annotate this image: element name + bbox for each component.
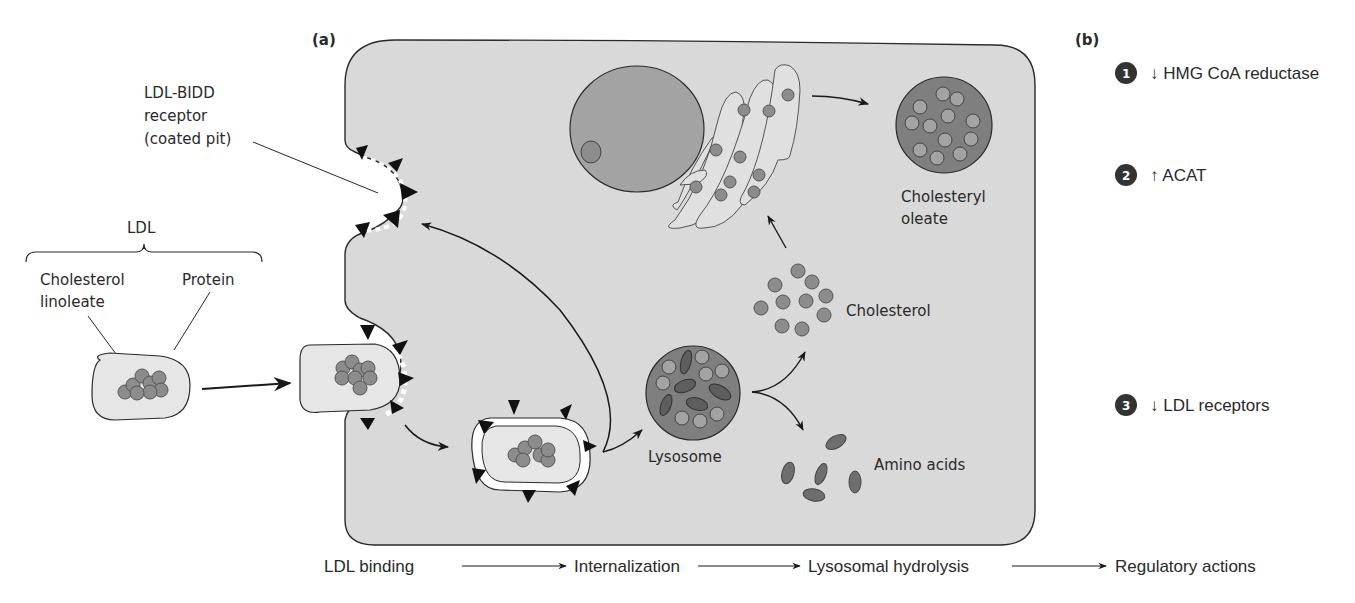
- action-text-1: ↓ HMG CoA reductase: [1150, 64, 1319, 83]
- amino-acids-label: Amino acids: [874, 456, 966, 474]
- receptor-label-line1: LDL-BIDD: [144, 84, 215, 102]
- arrow-down-icon: ↓: [1150, 64, 1159, 83]
- receptor-label-line2: receptor: [144, 107, 208, 125]
- ldl-particle: [92, 353, 190, 420]
- badge-number: 3: [1122, 399, 1130, 413]
- panel-a-label: (a): [312, 31, 336, 49]
- process-steps: LDL binding Internalization Lysosomal hy…: [324, 557, 1256, 576]
- badge-number: 1: [1122, 67, 1130, 81]
- ldl-label: LDL: [127, 219, 156, 237]
- action-label: ACAT: [1162, 166, 1206, 185]
- leader-line: [174, 292, 210, 350]
- step-regulatory-actions: Regulatory actions: [1115, 557, 1256, 576]
- action-label: HMG CoA reductase: [1163, 64, 1319, 83]
- badge-number: 2: [1122, 169, 1130, 183]
- cholesteryl-oleate-label-line2: oleate: [901, 210, 948, 228]
- cholesterol-linoleate-label-line1: Cholesterol: [40, 271, 125, 289]
- panel-b: (b) 1 ↓ HMG CoA reductase 2 ↑ ACAT 3 ↓ L…: [1075, 31, 1319, 416]
- ldl-pathway-diagram: LDL-BIDD receptor (coated pit) (a) LDL C…: [0, 0, 1355, 603]
- cholesterol-label: Cholesterol: [846, 302, 931, 320]
- arrow-down-icon: ↓: [1150, 396, 1159, 415]
- action-text-2: ↑ ACAT: [1150, 166, 1206, 185]
- lysosome: [646, 346, 740, 440]
- action-label: LDL receptors: [1163, 396, 1269, 415]
- leader-line: [88, 316, 116, 354]
- regulatory-action-3: 3 ↓ LDL receptors: [1115, 394, 1269, 416]
- receptor-label: LDL-BIDD receptor (coated pit): [144, 84, 378, 193]
- protein-label: Protein: [182, 271, 235, 289]
- brace: [26, 244, 262, 262]
- lysosome-label: Lysosome: [648, 448, 722, 466]
- action-text-3: ↓ LDL receptors: [1150, 396, 1269, 415]
- ldl-label-group: LDL Cholesterol linoleate Protein: [26, 219, 262, 354]
- panel-b-label: (b): [1075, 31, 1099, 49]
- nucleus: [570, 66, 704, 192]
- step-lysosomal-hydrolysis: Lysosomal hydrolysis: [808, 557, 969, 576]
- cholesterol-linoleate-label-line2: linoleate: [40, 293, 105, 311]
- step-internalization: Internalization: [574, 557, 680, 576]
- regulatory-action-1: 1 ↓ HMG CoA reductase: [1115, 62, 1319, 84]
- cholesteryl-oleate-label-line1: Cholesteryl: [901, 188, 986, 206]
- regulatory-action-2: 2 ↑ ACAT: [1115, 164, 1206, 186]
- cholesteryl-oleate-droplet: [896, 77, 992, 173]
- receptor-label-line3: (coated pit): [144, 130, 231, 148]
- arrow-binding: [202, 383, 290, 389]
- step-ldl-binding: LDL binding: [324, 557, 414, 576]
- arrow-up-icon: ↑: [1150, 166, 1159, 185]
